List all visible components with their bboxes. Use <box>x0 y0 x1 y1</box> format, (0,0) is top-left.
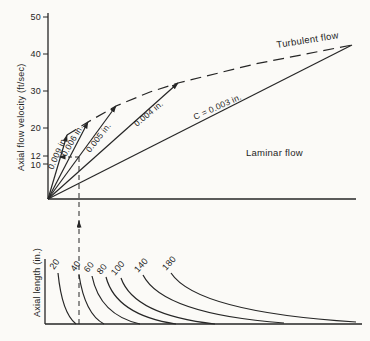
clearance-lines <box>48 45 352 199</box>
curve-40 <box>79 275 104 324</box>
laminar-flow-label: Laminar flow <box>246 147 303 158</box>
curve-100 <box>121 278 215 324</box>
tick-marks <box>43 17 48 164</box>
turbulent-flow-label: Turbulent flow <box>276 29 340 50</box>
label-clearance-0003: C = 0.003 in. <box>192 92 243 122</box>
top-velocity-chart: 50 40 30 20 12 10 Axial flow velocity (f… <box>16 12 356 324</box>
label-curve-60: 60 <box>82 260 96 274</box>
figure-canvas: 50 40 30 20 12 10 Axial flow velocity (f… <box>0 0 370 341</box>
curve-180 <box>171 273 356 322</box>
tick-label-30: 30 <box>30 86 41 96</box>
top-y-axis-title: Axial flow velocity (ft/sec) <box>16 63 26 171</box>
label-curve-140: 140 <box>132 256 150 274</box>
bottom-axial-length-chart: Axial length (in.) 20 40 60 80 100 140 1… <box>32 248 362 324</box>
tick-label-20: 20 <box>30 123 41 133</box>
label-clearance-0005: 0.005 in. <box>84 121 113 155</box>
label-clearance-0004: 0.004 in. <box>132 98 165 128</box>
turbulent-envelope-dashed <box>67 45 352 135</box>
axial-length-curves <box>58 273 356 324</box>
curve-60 <box>92 276 140 324</box>
line-clearance-0003 <box>48 45 352 199</box>
curve-80 <box>106 277 176 324</box>
bottom-y-axis-title: Axial length (in.) <box>32 248 42 317</box>
label-curve-20: 20 <box>47 257 61 271</box>
label-curve-180: 180 <box>160 254 178 272</box>
flow-velocity-figure: 50 40 30 20 12 10 Axial flow velocity (f… <box>0 0 370 341</box>
label-curve-40: 40 <box>68 259 82 273</box>
tick-label-50: 50 <box>30 12 41 22</box>
clearance-line-labels: 0.009 in. 0.006 in. 0.005 in. 0.004 in. … <box>46 92 243 171</box>
curve-20 <box>58 273 76 324</box>
curve-140 <box>143 275 284 323</box>
tick-label-40: 40 <box>30 49 41 59</box>
axial-length-curve-labels: 20 40 60 80 100 140 180 <box>47 254 178 277</box>
label-curve-100: 100 <box>109 259 127 278</box>
top-y-ticks: 50 40 30 20 12 10 <box>30 12 48 170</box>
label-curve-80: 80 <box>95 262 109 276</box>
tick-label-10: 10 <box>30 160 41 170</box>
